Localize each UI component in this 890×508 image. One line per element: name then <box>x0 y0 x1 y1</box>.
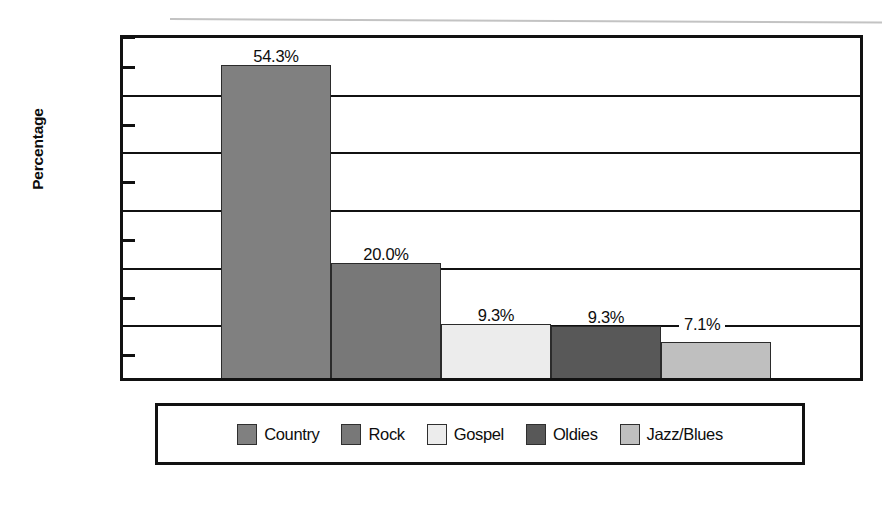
legend-item-gospel[interactable]: Gospel <box>427 424 504 445</box>
y-tick-major-20 <box>123 268 135 270</box>
y-tick-major-40 <box>123 152 135 154</box>
bar-chart-figure: Percentage 0%10%20%30%40%50%60%54.3%20.0… <box>0 0 890 508</box>
legend-swatch-icon <box>620 424 640 445</box>
legend-item-oldies[interactable]: Oldies <box>526 424 598 445</box>
value-label-country: 54.3% <box>221 47 331 66</box>
y-tick-major-30 <box>123 210 135 212</box>
legend-item-country[interactable]: Country <box>237 424 319 445</box>
y-axis-title: Percentage <box>29 69 47 229</box>
bar-oldies[interactable] <box>551 326 661 378</box>
legend-item-rock[interactable]: Rock <box>341 424 404 445</box>
bar-jazz-blues[interactable] <box>661 342 771 378</box>
bar-rock[interactable] <box>331 263 441 378</box>
value-label-jazz-blues: 7.1% <box>679 315 725 334</box>
y-tick-major-60 <box>123 38 135 39</box>
value-label-rock: 20.0% <box>331 245 441 264</box>
legend-item-jazz-blues[interactable]: Jazz/Blues <box>620 424 723 445</box>
bar-gospel[interactable] <box>441 324 551 378</box>
y-tick-minor-25 <box>123 239 135 242</box>
legend-swatch-icon <box>427 424 447 445</box>
legend-label: Rock <box>368 425 404 444</box>
legend-swatch-icon <box>237 424 257 445</box>
value-label-gospel: 9.3% <box>441 306 551 325</box>
y-tick-minor-35 <box>123 181 135 184</box>
y-tick-minor-55 <box>123 66 135 69</box>
legend-label: Gospel <box>454 425 504 444</box>
bar-country[interactable] <box>221 65 331 378</box>
legend-swatch-icon <box>526 424 546 445</box>
legend-label: Country <box>264 425 319 444</box>
legend-label: Jazz/Blues <box>647 425 723 444</box>
legend-label: Oldies <box>553 425 598 444</box>
y-tick-major-50 <box>123 95 135 97</box>
y-tick-minor-45 <box>123 124 135 127</box>
chart-legend: CountryRockGospelOldiesJazz/Blues <box>155 403 805 465</box>
legend-swatch-icon <box>341 424 361 445</box>
plot-inner: 0%10%20%30%40%50%60%54.3%20.0%9.3%9.3%7.… <box>123 38 860 378</box>
y-tick-major-10 <box>123 325 135 327</box>
value-label-oldies: 9.3% <box>551 308 661 327</box>
plot-area: 0%10%20%30%40%50%60%54.3%20.0%9.3%9.3%7.… <box>120 35 863 381</box>
y-tick-minor-15 <box>123 297 135 300</box>
y-tick-minor-5 <box>123 354 135 357</box>
scan-artifact-line <box>170 18 882 23</box>
